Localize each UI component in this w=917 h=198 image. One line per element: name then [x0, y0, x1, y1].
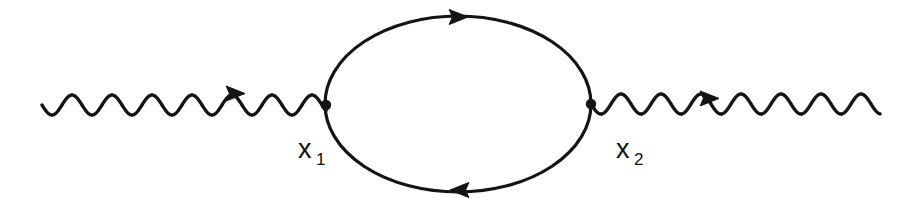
diagram-background: [0, 0, 917, 198]
vertex-label-x2-subscript: 2: [634, 150, 643, 169]
feynman-diagram-canvas: x 1 x 2: [0, 0, 917, 198]
vertex-dot-x1: [321, 100, 331, 110]
vertex-dot-x2: [586, 99, 596, 109]
feynman-diagram-svg: x 1 x 2: [0, 0, 917, 198]
vertex-label-x1-base: x: [298, 134, 312, 164]
vertex-label-x1-subscript: 1: [316, 150, 325, 169]
vertex-label-x2-base: x: [616, 134, 630, 164]
